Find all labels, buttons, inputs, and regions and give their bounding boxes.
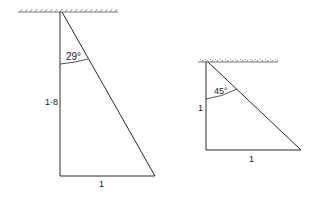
- right-ground-hatching: [198, 59, 278, 62]
- left-height-label: 1·8: [45, 98, 58, 107]
- right-angle-label: 45°: [214, 87, 228, 96]
- left-triangle: [18, 9, 155, 176]
- left-hypotenuse: [62, 12, 155, 176]
- left-angle-label: 29°: [66, 52, 81, 62]
- right-triangle: [198, 59, 301, 150]
- left-ground-hatching: [18, 9, 118, 12]
- right-base-label: 1: [249, 155, 254, 164]
- left-base-label: 1: [99, 180, 104, 189]
- right-hypotenuse: [208, 62, 301, 150]
- right-height-label: 1: [198, 104, 203, 113]
